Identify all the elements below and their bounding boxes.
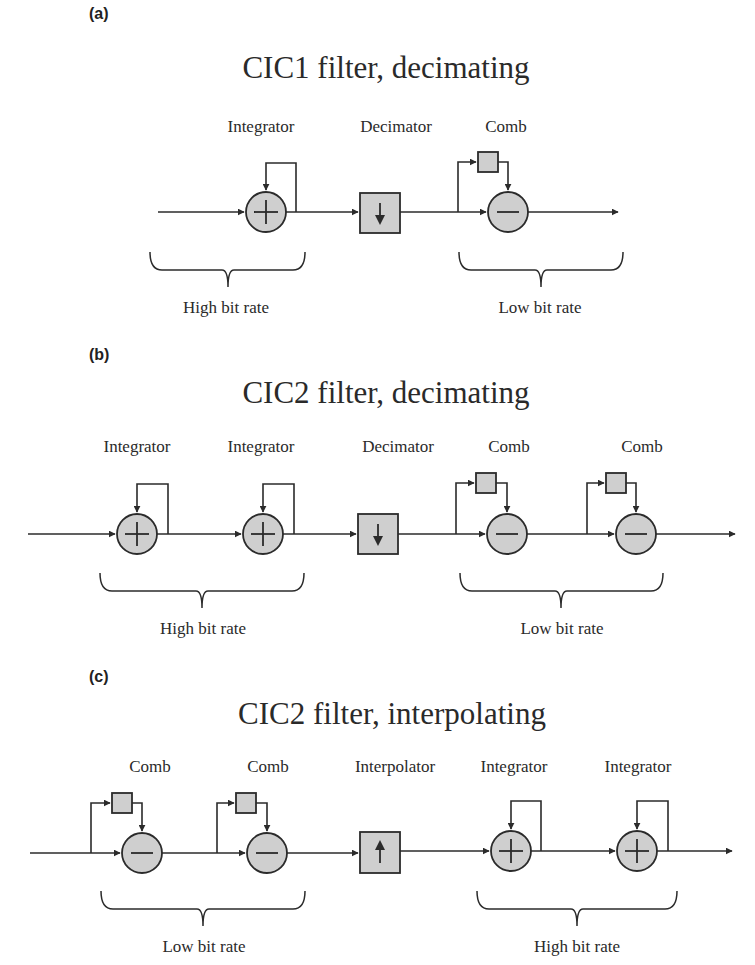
rate-label-left: High bit rate (160, 619, 246, 638)
comb-block (456, 473, 527, 554)
delay-branch (217, 803, 234, 853)
integrator-block (243, 484, 294, 554)
comb-block (587, 473, 656, 554)
integrator-block (491, 801, 541, 871)
label-decimator: Decimator (362, 437, 434, 456)
delay-branch (458, 162, 476, 212)
delay-branch (587, 483, 604, 534)
label-comb: Comb (247, 757, 289, 776)
comb-block (91, 793, 162, 873)
brace-left (150, 252, 305, 287)
delay-output (496, 483, 507, 512)
brace-right (460, 573, 663, 608)
cic-filter-diagrams: (a) CIC1 filter, decimating Integrator D… (0, 0, 755, 965)
delay-output (498, 162, 508, 190)
interpolator-block (360, 832, 400, 873)
delay-box (606, 473, 626, 493)
delay-branch (456, 483, 474, 534)
rate-label-left: High bit rate (183, 298, 269, 317)
comb-block (458, 152, 528, 232)
delay-box (236, 793, 256, 813)
label-comb: Comb (488, 437, 530, 456)
decimator-block (360, 193, 400, 233)
rate-label-right: Low bit rate (498, 298, 581, 317)
brace-right (477, 891, 677, 926)
decimator-block (358, 514, 398, 554)
panel-title-c: CIC2 filter, interpolating (238, 696, 546, 731)
label-integrator: Integrator (480, 757, 547, 776)
panel-label-c: (c) (89, 668, 109, 685)
integrator-block (617, 801, 668, 871)
label-integrator: Integrator (604, 757, 671, 776)
label-integrator: Integrator (227, 117, 294, 136)
delay-output (256, 803, 267, 831)
brace-left (101, 891, 305, 926)
label-comb: Comb (621, 437, 663, 456)
delay-output (132, 803, 142, 831)
panel-label-b: (b) (89, 346, 109, 363)
integrator-block (117, 484, 168, 554)
panel-title-a: CIC1 filter, decimating (242, 50, 529, 85)
delay-box (476, 473, 496, 493)
rate-label-right: High bit rate (534, 937, 620, 956)
panel-a: (a) CIC1 filter, decimating Integrator D… (89, 5, 623, 317)
delay-box (478, 152, 498, 172)
panel-b: (b) CIC2 filter, decimating Integrator I… (28, 346, 735, 638)
comb-block (217, 793, 287, 873)
panel-c: (c) CIC2 filter, interpolating Comb Comb… (30, 668, 732, 956)
delay-box (112, 793, 132, 813)
rate-label-left: Low bit rate (162, 937, 245, 956)
delay-output (626, 483, 636, 512)
panel-label-a: (a) (89, 5, 109, 22)
label-interpolator: Interpolator (355, 757, 436, 776)
brace-right (459, 252, 623, 287)
label-comb: Comb (485, 117, 527, 136)
brace-left (100, 573, 304, 608)
label-integrator: Integrator (227, 437, 294, 456)
rate-label-right: Low bit rate (520, 619, 603, 638)
label-decimator: Decimator (360, 117, 432, 136)
label-comb: Comb (129, 757, 171, 776)
integrator-block (246, 163, 296, 232)
panel-title-b: CIC2 filter, decimating (242, 375, 529, 410)
label-integrator: Integrator (103, 437, 170, 456)
delay-branch (91, 803, 110, 853)
